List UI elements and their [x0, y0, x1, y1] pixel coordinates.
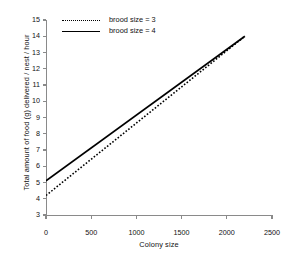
y-tick-label-text: 12 [14, 65, 40, 72]
series-lines [46, 20, 272, 215]
y-tick-label: 10 [14, 97, 40, 105]
x-tick-mark [136, 216, 137, 220]
legend-label-brood-size-3: brood size = 3 [109, 15, 156, 24]
y-tick-label-text: 13 [14, 49, 40, 56]
x-tick-label-text: 1000 [128, 228, 144, 237]
y-tick-label: 5 [14, 179, 40, 187]
x-tick-label: 500 [71, 221, 111, 239]
x-tick-label: 2500 [252, 221, 286, 239]
x-tick-label-text: 0 [44, 228, 48, 237]
x-tick-label: 2000 [207, 221, 247, 239]
x-tick-mark [91, 216, 92, 220]
y-tick-label: 11 [14, 81, 40, 89]
x-tick-label-text: 1500 [174, 228, 190, 237]
y-tick-label: 7 [14, 146, 40, 154]
plot-area [46, 20, 272, 215]
y-tick-label-text: 14 [14, 32, 40, 39]
x-tick-mark [181, 216, 182, 220]
legend-label-brood-size-4: brood size = 4 [109, 26, 156, 35]
x-axis-title: Colony size [46, 240, 272, 249]
x-tick-mark [271, 216, 272, 220]
legend-swatch-dotted-icon [62, 16, 100, 24]
y-tick-label-text: 7 [14, 146, 40, 153]
y-tick-label-text: 3 [14, 211, 40, 218]
y-tick-label-text: 9 [14, 114, 40, 121]
y-tick-label: 4 [14, 195, 40, 203]
y-tick-label: 14 [14, 32, 40, 40]
y-tick-label-text: 11 [14, 81, 40, 88]
legend-swatch-solid-icon [62, 27, 100, 35]
x-tick-mark [226, 216, 227, 220]
x-tick-label: 0 [26, 221, 66, 239]
y-tick-label: 3 [14, 211, 40, 219]
x-tick-label-text: 2000 [219, 228, 235, 237]
legend-item-brood-size-3: brood size = 3 [62, 14, 192, 25]
x-tick-mark [45, 216, 46, 220]
legend-item-brood-size-4: brood size = 4 [62, 25, 192, 36]
y-tick-label-text: 5 [14, 179, 40, 186]
y-tick-label: 8 [14, 130, 40, 138]
y-tick-label: 13 [14, 49, 40, 57]
y-tick-label-text: 8 [14, 130, 40, 137]
x-tick-label: 1000 [116, 221, 156, 239]
y-tick-label: 6 [14, 162, 40, 170]
y-tick-label-text: 6 [14, 162, 40, 169]
x-tick-label-text: 500 [85, 228, 97, 237]
series-line [46, 36, 245, 195]
y-tick-label: 12 [14, 65, 40, 73]
y-tick-label: 9 [14, 114, 40, 122]
x-tick-label: 1500 [162, 221, 202, 239]
y-tick-label-text: 4 [14, 195, 40, 202]
y-tick-label-text: 15 [14, 16, 40, 23]
y-tick-label-text: 10 [14, 97, 40, 104]
x-tick-label-text: 2500 [264, 228, 280, 237]
y-tick-label: 15 [14, 16, 40, 24]
legend: brood size = 3 brood size = 4 [62, 14, 192, 36]
chart-figure: Total amount of food (g) delivered / nes… [0, 0, 286, 262]
series-line [46, 36, 245, 181]
